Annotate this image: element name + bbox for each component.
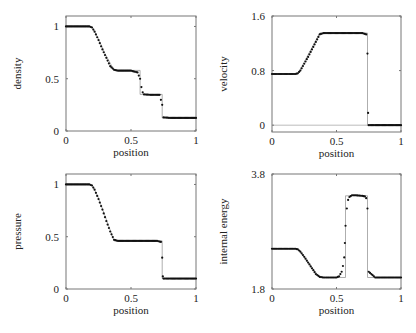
simulation-points [65,25,197,119]
y-tick-label: 1.6 [251,10,265,22]
y-axis-label: internal energy [217,198,229,265]
y-tick-label: 1.8 [251,283,265,295]
x-tick-label: 1 [398,292,404,304]
simulation-points [271,32,402,126]
plot-frame [272,174,401,289]
exact-solution-line [66,185,196,279]
x-tick-label: 0.5 [124,292,138,304]
x-tick-label: 0.5 [330,135,344,147]
plot-frame [66,174,196,289]
y-tick-label: 0 [54,125,60,137]
x-tick-label: 1 [398,135,404,147]
plot-frame [66,16,196,131]
exact-solution-line [66,27,196,118]
panel-velocity: 00.5100.81.6positionvelocity [217,10,404,159]
y-tick-label: 3.8 [251,168,265,180]
x-tick-label: 0 [269,292,275,304]
y-axis-label: velocity [217,56,229,92]
y-tick-label: 0.8 [251,65,265,77]
x-tick-label: 0 [63,134,69,146]
y-tick-label: 0.5 [45,231,59,243]
x-tick-label: 0 [269,135,275,147]
y-axis-label: pressure [11,213,23,250]
x-tick-label: 0.5 [124,134,138,146]
x-tick-label: 1 [193,292,199,304]
x-axis-label: position [319,147,355,159]
y-tick-label: 1 [54,20,60,32]
x-axis-label: position [113,146,149,158]
x-tick-label: 0 [63,292,69,304]
exact-solution-line [272,196,401,278]
x-axis-label: position [319,304,355,316]
simulation-points [271,194,402,278]
y-tick-label: 0 [54,283,60,295]
panel-pressure: 00.5100.51positionpressure [11,174,199,316]
x-axis-label: position [113,304,149,316]
simulation-points [65,183,197,279]
panel-density: 00.5100.51positiondensity [11,16,199,158]
y-tick-label: 0 [260,119,266,131]
figure-canvas: 00.5100.51positiondensity00.5100.81.6pos… [0,0,416,333]
panel-internal-energy: 00.511.83.8positioninternal energy [217,168,404,316]
x-tick-label: 0.5 [330,292,344,304]
y-tick-label: 0.5 [45,73,59,85]
exact-solution-line [272,33,401,125]
y-axis-label: density [11,57,23,89]
y-tick-label: 1 [54,178,60,190]
x-tick-label: 1 [193,134,199,146]
